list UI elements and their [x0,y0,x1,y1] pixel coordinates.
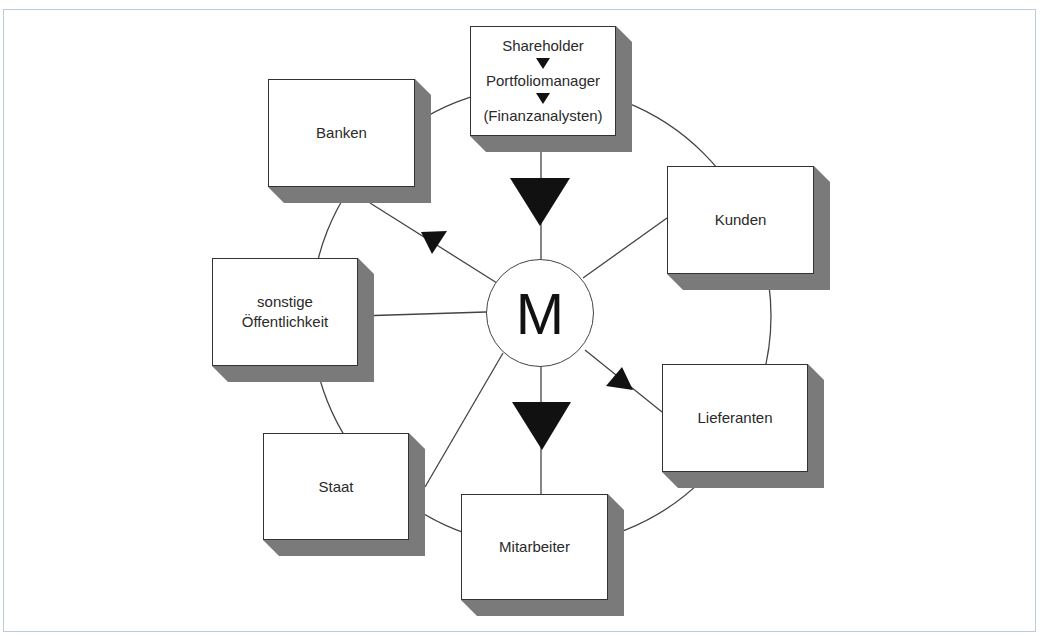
sonstige-label: sonstige [257,292,313,312]
staat-label: Staat [318,477,353,497]
shareholder-box: Shareholder Portfoliomanager (Finanzanal… [470,26,616,136]
portfoliomanager-label: Portfoliomanager [486,71,600,91]
lieferanten-label: Lieferanten [697,408,772,428]
lieferanten-box: Lieferanten [662,364,808,472]
management-label: M [516,280,564,347]
banken-box: Banken [268,79,415,187]
mitarbeiter-box: Mitarbeiter [461,494,608,600]
sonstige-oeffentlichkeit-box: sonstige Öffentlichkeit [212,258,358,366]
mitarbeiter-label: Mitarbeiter [499,537,570,557]
banken-label: Banken [316,123,367,143]
down-triangle-icon [536,93,550,104]
management-circle: M [486,259,594,367]
down-triangle-icon [536,58,550,69]
finanzanalysten-label: (Finanzanalysten) [483,106,602,126]
kunden-box: Kunden [667,166,814,274]
staat-box: Staat [263,433,409,540]
kunden-label: Kunden [715,210,767,230]
shareholder-label: Shareholder [502,36,584,56]
oeffentlichkeit-label: Öffentlichkeit [242,312,328,332]
